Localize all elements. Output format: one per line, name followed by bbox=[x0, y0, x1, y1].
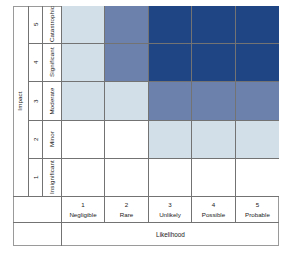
heatmap-cell bbox=[149, 121, 192, 159]
likelihood-category-label: Rare bbox=[105, 212, 148, 219]
impact-level-label: 2 bbox=[32, 138, 38, 142]
impact-axis-title-text: Impact bbox=[13, 6, 28, 196]
risk-matrix-chart: Impact 54321 CatastrophicSignificantMode… bbox=[0, 0, 292, 253]
impact-axis-title: Impact bbox=[13, 6, 29, 197]
impact-level-text: 3 bbox=[29, 82, 42, 120]
likelihood-level-label: 4 bbox=[192, 202, 235, 209]
heatmap-cell bbox=[149, 82, 192, 121]
heatmap-cell bbox=[149, 159, 192, 197]
impact-level-label: 5 bbox=[32, 23, 38, 27]
impact-level-label: 1 bbox=[32, 176, 38, 180]
heatmap-cell bbox=[62, 6, 105, 44]
likelihood-level-label: 1 bbox=[62, 202, 104, 209]
heatmap-grid bbox=[62, 6, 279, 197]
impact-level-text: 2 bbox=[29, 121, 42, 158]
heatmap-cell bbox=[105, 6, 149, 44]
impact-category-cell: Minor bbox=[43, 121, 62, 159]
heatmap-cell bbox=[62, 82, 105, 121]
impact-level-column: 54321 bbox=[29, 6, 43, 197]
likelihood-header-row: 1Negligible2Rare3Unlikely4Possible5Proba… bbox=[62, 197, 279, 223]
impact-level-cell: 5 bbox=[29, 6, 43, 44]
impact-label-column: CatastrophicSignificantModerateMinorInsi… bbox=[43, 6, 62, 197]
impact-category-cell: Catastrophic bbox=[43, 6, 62, 44]
heatmap-cell bbox=[149, 44, 192, 82]
impact-category-cell: Significant bbox=[43, 44, 62, 82]
likelihood-category-label: Unlikely bbox=[149, 212, 191, 219]
likelihood-header-cell: 5Probable bbox=[236, 197, 279, 223]
impact-category-label: Moderate bbox=[49, 88, 55, 115]
heatmap-cell bbox=[105, 44, 149, 82]
likelihood-header-cell: 1Negligible bbox=[62, 197, 105, 223]
impact-category-text: Minor bbox=[43, 121, 61, 158]
likelihood-level-label: 2 bbox=[105, 202, 148, 209]
impact-category-text: Moderate bbox=[43, 82, 61, 120]
likelihood-category-label: Negligible bbox=[62, 212, 104, 219]
impact-level-cell: 4 bbox=[29, 44, 43, 82]
heatmap-cell bbox=[236, 121, 279, 159]
impact-level-cell: 3 bbox=[29, 82, 43, 121]
heatmap-cell bbox=[192, 44, 236, 82]
impact-category-label: Insignificant bbox=[49, 161, 55, 195]
heatmap-cell bbox=[149, 6, 192, 44]
likelihood-category-label: Possible bbox=[192, 212, 235, 219]
impact-axis-title-label: Impact bbox=[17, 91, 23, 110]
likelihood-category-label: Probable bbox=[236, 212, 279, 219]
impact-category-text: Significant bbox=[43, 44, 61, 81]
likelihood-header-cell: 3Unlikely bbox=[149, 197, 192, 223]
heatmap-cell bbox=[192, 121, 236, 159]
impact-level-label: 4 bbox=[32, 61, 38, 65]
heatmap-cell bbox=[192, 159, 236, 197]
heatmap-cell bbox=[62, 44, 105, 82]
likelihood-header-cell: 4Possible bbox=[192, 197, 236, 223]
corner-cell-top bbox=[13, 197, 62, 223]
impact-category-label: Catastrophic bbox=[49, 7, 55, 43]
heatmap-cell bbox=[105, 159, 149, 197]
impact-category-label: Significant bbox=[49, 48, 55, 78]
impact-level-text: 4 bbox=[29, 44, 42, 81]
heatmap-cell bbox=[236, 159, 279, 197]
heatmap-cell bbox=[192, 82, 236, 121]
impact-category-label: Minor bbox=[49, 132, 55, 148]
likelihood-axis-title-label: Likelihood bbox=[156, 231, 185, 238]
heatmap-cell bbox=[236, 6, 279, 44]
heatmap-cell bbox=[192, 6, 236, 44]
impact-category-text: Catastrophic bbox=[43, 6, 61, 43]
impact-level-label: 3 bbox=[32, 99, 38, 103]
heatmap-cell bbox=[236, 82, 279, 121]
impact-level-text: 1 bbox=[29, 159, 42, 196]
likelihood-header-cell: 2Rare bbox=[105, 197, 149, 223]
corner-cell-bottom bbox=[13, 223, 62, 246]
likelihood-axis-title: Likelihood bbox=[62, 223, 279, 246]
impact-level-text: 5 bbox=[29, 6, 42, 43]
likelihood-level-label: 3 bbox=[149, 202, 191, 209]
heatmap-cell bbox=[62, 121, 105, 159]
impact-level-cell: 1 bbox=[29, 159, 43, 197]
impact-category-cell: Insignificant bbox=[43, 159, 62, 197]
impact-category-text: Insignificant bbox=[43, 159, 61, 196]
impact-category-cell: Moderate bbox=[43, 82, 62, 121]
heatmap-cell bbox=[105, 82, 149, 121]
heatmap-cell bbox=[236, 44, 279, 82]
impact-level-cell: 2 bbox=[29, 121, 43, 159]
heatmap-cell bbox=[62, 159, 105, 197]
likelihood-level-label: 5 bbox=[236, 202, 279, 209]
heatmap-cell bbox=[105, 121, 149, 159]
